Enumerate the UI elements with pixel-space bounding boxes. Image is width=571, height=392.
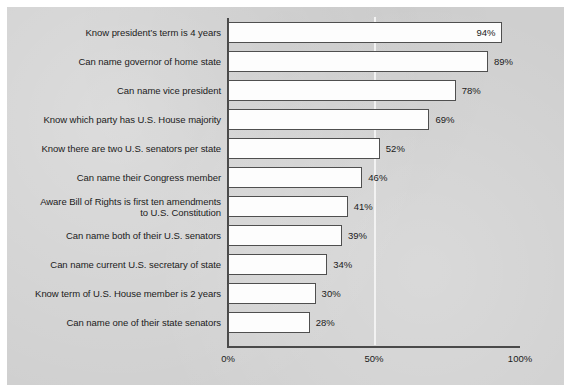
x-tick-label: 50% xyxy=(364,353,383,364)
bar-track: 39% xyxy=(228,224,520,248)
bar[interactable] xyxy=(228,109,429,130)
bar[interactable] xyxy=(228,196,348,217)
bar-category-label-line1: Know term of U.S. House member is 2 year… xyxy=(35,288,221,300)
bar-category-label: Know term of U.S. House member is 2 year… xyxy=(9,282,221,306)
bar-category-label: Aware Bill of Rights is first ten amendm… xyxy=(9,195,221,219)
bar-category-label: Can name one of their state senators xyxy=(9,311,221,335)
bar-category-label: Know which party has U.S. House majority xyxy=(9,108,221,132)
bar-category-label-line1: Can name governor of home state xyxy=(78,56,221,68)
bar-row[interactable]: Know term of U.S. House member is 2 year… xyxy=(7,282,564,306)
bar-row[interactable]: Can name one of their state senators28% xyxy=(7,311,564,335)
bar-category-label-line1: Know there are two U.S. senators per sta… xyxy=(41,143,221,155)
bar[interactable] xyxy=(228,80,456,101)
bar-track: 41% xyxy=(228,195,520,219)
bar-track: 46% xyxy=(228,166,520,190)
bar-track: 28% xyxy=(228,311,520,335)
bar-category-label: Can name their Congress member xyxy=(9,166,221,190)
bar-row[interactable]: Can name vice president78% xyxy=(7,79,564,103)
bar-value-label: 39% xyxy=(342,225,367,246)
bar-row[interactable]: Know there are two U.S. senators per sta… xyxy=(7,137,564,161)
bar[interactable] xyxy=(228,167,362,188)
bar-row[interactable]: Can name their Congress member46% xyxy=(7,166,564,190)
bar-value-label: 52% xyxy=(380,138,405,159)
bar-category-label: Know president’s term is 4 years xyxy=(9,21,221,45)
bar-value-label: 28% xyxy=(310,312,335,333)
bar-category-label: Can name governor of home state xyxy=(9,50,221,74)
bar-track: 34% xyxy=(228,253,520,277)
chart-plate: Know president’s term is 4 years94%Can n… xyxy=(7,7,564,385)
bar[interactable] xyxy=(228,283,316,304)
bar-category-label: Know there are two U.S. senators per sta… xyxy=(9,137,221,161)
bar-track: 89% xyxy=(228,50,520,74)
bar-row[interactable]: Know president’s term is 4 years94% xyxy=(7,21,564,45)
bar-row[interactable]: Can name governor of home state89% xyxy=(7,50,564,74)
bar[interactable] xyxy=(228,225,342,246)
bar-category-label-line1: Aware Bill of Rights is first ten amendm… xyxy=(40,196,221,208)
bar-track: 94% xyxy=(228,21,520,45)
bar-value-label: 41% xyxy=(348,196,373,217)
bar-value-label: 46% xyxy=(362,167,387,188)
bar-value-label: 89% xyxy=(488,51,513,72)
bar-row[interactable]: Can name current U.S. secretary of state… xyxy=(7,253,564,277)
bar-category-label-line1: Can name one of their state senators xyxy=(66,317,221,329)
plot-area: Know president’s term is 4 years94%Can n… xyxy=(7,7,564,385)
bar-category-label-line1: Can name current U.S. secretary of state xyxy=(50,259,221,271)
bar-track: 30% xyxy=(228,282,520,306)
chart-figure: Know president’s term is 4 years94%Can n… xyxy=(0,0,571,392)
bar-track: 69% xyxy=(228,108,520,132)
x-tick-label: 0% xyxy=(221,353,235,364)
bar-value-label: 78% xyxy=(456,80,481,101)
x-axis-tick-labels: 0%50%100% xyxy=(7,353,564,369)
bar[interactable] xyxy=(228,51,488,72)
bar-value-label: 69% xyxy=(429,109,454,130)
bar-category-label-line1: Can name vice president xyxy=(117,85,221,97)
bar-row[interactable]: Can name both of their U.S. senators39% xyxy=(7,224,564,248)
bar-track: 52% xyxy=(228,137,520,161)
bar-category-label-line1: Know which party has U.S. House majority xyxy=(43,114,221,126)
bar-category-label-line1: Can name both of their U.S. senators xyxy=(66,230,221,242)
bar-category-label: Can name current U.S. secretary of state xyxy=(9,253,221,277)
bar-category-label: Can name both of their U.S. senators xyxy=(9,224,221,248)
bar-category-label: Can name vice president xyxy=(9,79,221,103)
bar[interactable] xyxy=(228,312,310,333)
bar-category-label-line2: to U.S. Constitution xyxy=(140,207,221,219)
bar-track: 78% xyxy=(228,79,520,103)
bar[interactable] xyxy=(228,138,380,159)
bar-category-label-line1: Can name their Congress member xyxy=(77,172,221,184)
bar-value-label: 30% xyxy=(316,283,341,304)
x-axis-line xyxy=(228,346,520,348)
bar-value-label: 34% xyxy=(327,254,352,275)
x-tick-label: 100% xyxy=(508,353,532,364)
bar-category-label-line1: Know president’s term is 4 years xyxy=(85,27,221,39)
bar-rows: Know president’s term is 4 years94%Can n… xyxy=(7,21,564,340)
bar-row[interactable]: Aware Bill of Rights is first ten amendm… xyxy=(7,195,564,219)
bar-row[interactable]: Know which party has U.S. House majority… xyxy=(7,108,564,132)
bar-value-label: 94% xyxy=(228,22,495,43)
bar[interactable] xyxy=(228,254,327,275)
